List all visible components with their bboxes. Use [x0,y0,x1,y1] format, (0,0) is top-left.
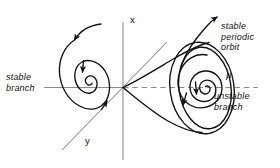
left-spiral-outer-turn [59,40,106,109]
hopf-bifurcation-figure: stable branch stable periodic orbit unst… [0,0,280,168]
right-incoming-trajectory-group [181,17,217,66]
label-stable-periodic-orbit: stable periodic orbit [221,21,254,53]
label-stable-branch: stable branch [6,72,35,93]
right-spiral-arrow-mid [196,82,197,94]
paraboloid-upper-edge [123,43,209,88]
left-spiral-mid-turn [75,61,110,100]
label-x-axis: x [130,14,135,25]
y-axis-line [62,42,167,150]
left-spiral-inner-turn [76,76,98,93]
paraboloid-lower-edge [123,88,202,133]
left-incoming-trajectory [75,24,102,40]
left-stable-spiral [59,24,109,110]
right-incoming-trajectory [181,17,217,66]
label-mu-axis: μ [226,68,232,80]
label-unstable-branch: unstable branch [214,91,250,112]
label-y-axis: y [85,135,90,146]
